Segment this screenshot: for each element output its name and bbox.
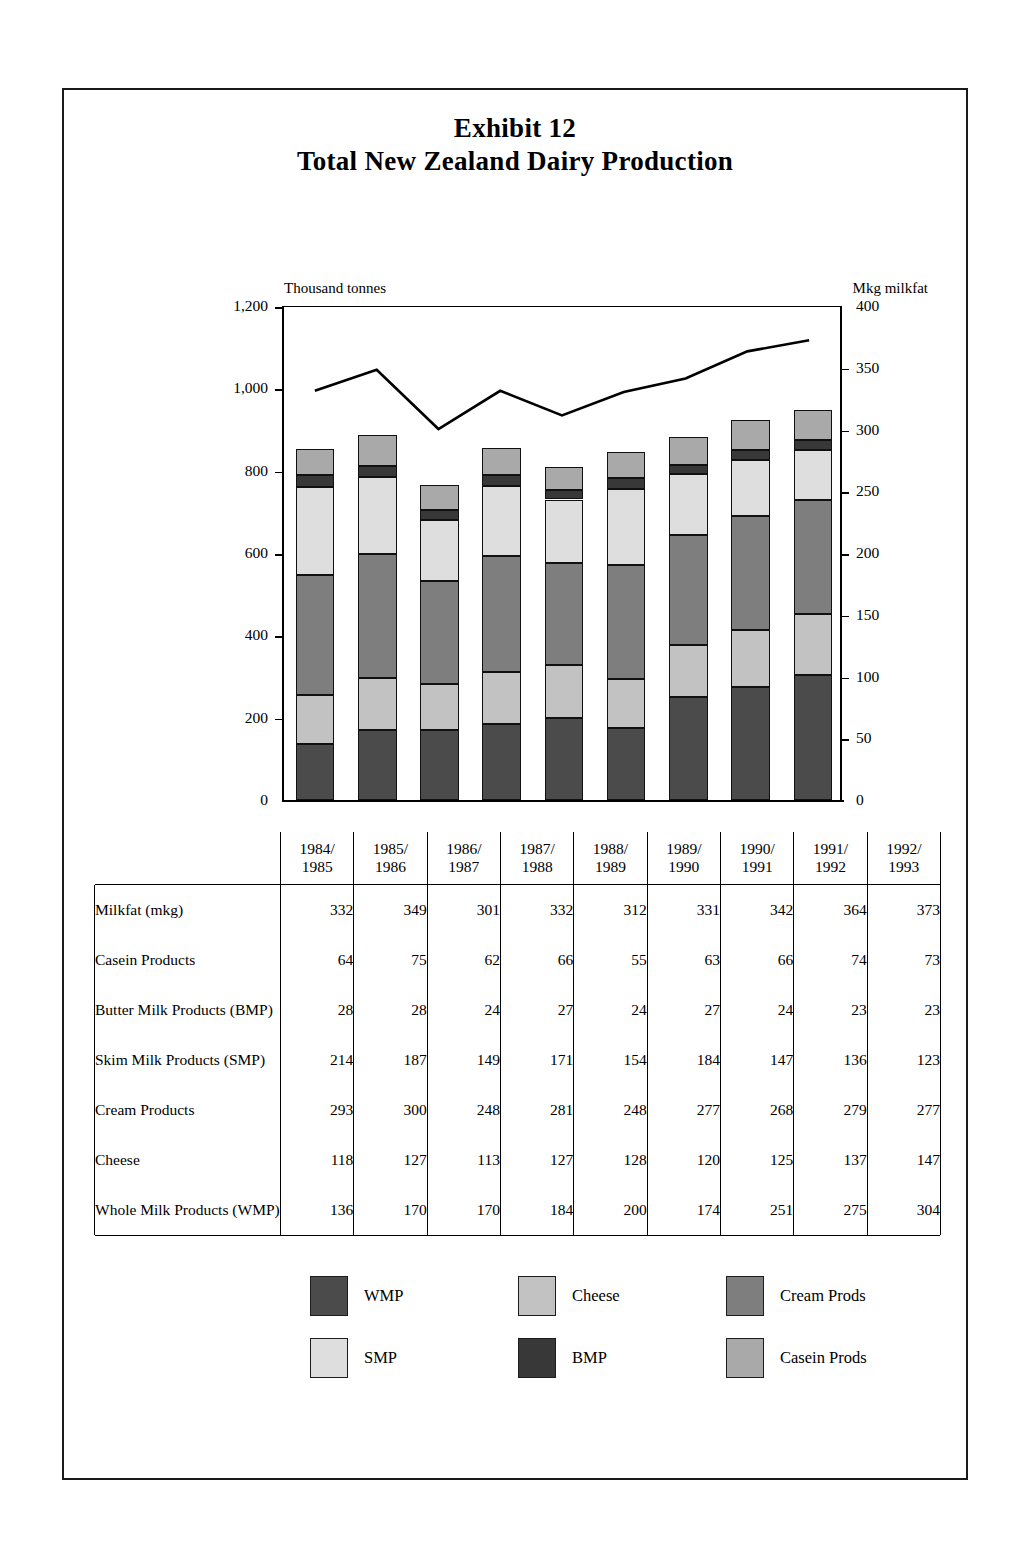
table-cell: 277 — [867, 1085, 940, 1135]
table-cell: 364 — [794, 885, 867, 935]
bar-segment-cream-prods — [607, 565, 646, 679]
bar-segment-casein-prods — [794, 410, 833, 440]
table-row: Milkfat (mkg)332349301332312331342364373 — [95, 885, 941, 935]
table-cell: 312 — [574, 885, 647, 935]
table-cell: 170 — [427, 1185, 500, 1235]
bar-segment-cheese — [420, 684, 459, 731]
bar-segment-casein-prods — [358, 435, 397, 466]
y-tick-right — [840, 431, 849, 433]
table-cell: 293 — [281, 1085, 354, 1135]
y-tick-label-right: 400 — [856, 297, 879, 315]
y-tick-right — [840, 739, 849, 741]
bar-segment-cheese — [794, 614, 833, 675]
table-corner-cell — [95, 832, 281, 885]
table-cell: 251 — [720, 1185, 793, 1235]
y-tick-label-right: 100 — [856, 668, 879, 686]
x-axis-baseline — [282, 800, 844, 802]
table-row: Butter Milk Products (BMP)28282427242724… — [95, 985, 941, 1035]
table-cell: 332 — [281, 885, 354, 935]
table-cell: 127 — [500, 1135, 573, 1185]
table-cell: 24 — [574, 985, 647, 1035]
table-cell: 331 — [647, 885, 720, 935]
chart-legend: WMPCheeseCream ProdsSMPBMPCasein Prods — [310, 1276, 910, 1378]
y-tick-left — [275, 554, 284, 556]
table-cell: 127 — [354, 1135, 427, 1185]
table-row: Whole Milk Products (WMP)136170170184200… — [95, 1185, 941, 1235]
bar-segment-cream-prods — [358, 554, 397, 678]
table-cell: 149 — [427, 1035, 500, 1085]
stacked-bar — [545, 467, 584, 800]
bar-segment-cheese — [731, 630, 770, 686]
bar-segment-wmp — [482, 724, 521, 800]
table-cell: 304 — [867, 1185, 940, 1235]
legend-swatch-icon — [726, 1338, 764, 1378]
table-row: Cheese118127113127128120125137147 — [95, 1135, 941, 1185]
bar-segment-cheese — [545, 665, 584, 718]
legend-item: WMP — [310, 1276, 518, 1316]
table-year-header: 1991/1992 — [794, 832, 867, 885]
table-year-header: 1984/1985 — [281, 832, 354, 885]
table-cell: 23 — [794, 985, 867, 1035]
bar-segment-smp — [420, 520, 459, 581]
table-year-header: 1987/1988 — [500, 832, 573, 885]
legend-label: BMP — [572, 1348, 607, 1368]
y-tick-label-left: 600 — [245, 544, 268, 562]
table-row-label: Cheese — [95, 1135, 281, 1185]
y-tick-label-right: 300 — [856, 421, 879, 439]
table-cell: 120 — [647, 1135, 720, 1185]
table-cell: 75 — [354, 935, 427, 985]
y-tick-label-left: 800 — [245, 462, 268, 480]
table-cell: 279 — [794, 1085, 867, 1135]
table-year-header: 1988/1989 — [574, 832, 647, 885]
table-cell: 62 — [427, 935, 500, 985]
y-tick-left — [275, 719, 284, 721]
table-year-header: 1985/1986 — [354, 832, 427, 885]
y-tick-label-right: 0 — [856, 791, 864, 809]
bar-segment-cream-prods — [482, 556, 521, 672]
bar-segment-bmp — [482, 475, 521, 486]
stacked-bar — [669, 437, 708, 800]
bar-segment-cheese — [296, 695, 335, 744]
exhibit-number: Exhibit 12 — [64, 112, 966, 145]
table-cell: 248 — [427, 1085, 500, 1135]
bar-segment-cream-prods — [794, 500, 833, 614]
y-tick-label-right: 50 — [856, 729, 872, 747]
y-tick-label-right: 150 — [856, 606, 879, 624]
y-tick-right — [840, 369, 849, 371]
table-cell: 74 — [794, 935, 867, 985]
table-year-header: 1986/1987 — [427, 832, 500, 885]
table-row-label: Cream Products — [95, 1085, 281, 1135]
table-row: Cream Products29330024828124827726827927… — [95, 1085, 941, 1135]
table-cell: 147 — [720, 1035, 793, 1085]
table-cell: 28 — [281, 985, 354, 1035]
table-cell: 27 — [647, 985, 720, 1035]
legend-swatch-icon — [518, 1338, 556, 1378]
bar-segment-casein-prods — [669, 437, 708, 464]
table-cell: 27 — [500, 985, 573, 1035]
table-cell: 125 — [720, 1135, 793, 1185]
y-tick-label-right: 350 — [856, 359, 879, 377]
stacked-bar — [731, 420, 770, 800]
bar-segment-smp — [607, 489, 646, 565]
table-cell: 301 — [427, 885, 500, 935]
bar-segment-bmp — [731, 450, 770, 459]
stacked-bar — [358, 435, 397, 800]
legend-label: Cheese — [572, 1286, 620, 1306]
bar-segment-casein-prods — [482, 448, 521, 475]
legend-label: Cream Prods — [780, 1286, 866, 1306]
legend-item: Cheese — [518, 1276, 726, 1316]
data-table: 1984/19851985/19861986/19871987/19881988… — [94, 832, 940, 1236]
y-tick-label-left: 1,200 — [233, 297, 268, 315]
legend-label: Casein Prods — [780, 1348, 867, 1368]
legend-swatch-icon — [310, 1338, 348, 1378]
table-cell: 73 — [867, 935, 940, 985]
bar-segment-smp — [794, 450, 833, 501]
table-cell: 214 — [281, 1035, 354, 1085]
bar-segment-cream-prods — [420, 581, 459, 683]
y-tick-label-left: 1,000 — [233, 379, 268, 397]
y-tick-left — [275, 472, 284, 474]
stacked-bar — [482, 448, 521, 800]
table-cell: 23 — [867, 985, 940, 1035]
table-cell: 184 — [647, 1035, 720, 1085]
legend-item: BMP — [518, 1338, 726, 1378]
